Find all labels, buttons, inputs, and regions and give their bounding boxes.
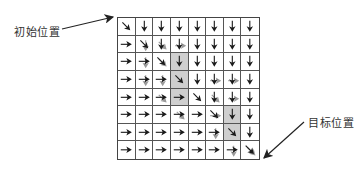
start-pointer-arrow-icon — [62, 17, 113, 29]
pointer-overlay — [0, 0, 362, 169]
goal-pointer-arrow-icon — [264, 122, 304, 158]
